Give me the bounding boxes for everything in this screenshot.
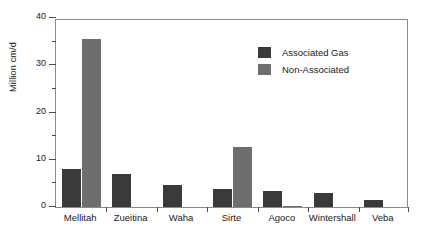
- y-tick-label: 40: [36, 11, 46, 21]
- x-category-label-sirte: Sirte: [222, 212, 242, 223]
- x-category-label-veba: Veba: [372, 212, 394, 223]
- bar-waha-associated-gas: [163, 185, 182, 207]
- bar-sirte-non-associated: [233, 147, 252, 207]
- y-axis-label: Million cm/d: [8, 7, 18, 127]
- x-tick: [258, 207, 259, 212]
- legend-swatch-icon: [258, 47, 271, 58]
- x-tick: [408, 207, 409, 212]
- bar-mellitah-associated-gas: [62, 169, 81, 207]
- x-tick: [106, 207, 107, 212]
- x-category-label-wintershall: Wintershall: [309, 212, 356, 223]
- chart-legend: Associated GasNon-Associated: [258, 44, 349, 78]
- x-tick: [207, 207, 208, 212]
- x-category-label-agoco: Agoco: [268, 212, 295, 223]
- legend-item-associated-gas: Associated Gas: [258, 44, 349, 61]
- legend-label: Non-Associated: [282, 64, 349, 75]
- x-tick: [359, 207, 360, 212]
- legend-item-non-associated: Non-Associated: [258, 61, 349, 78]
- y-tick-10: 10: [49, 159, 56, 160]
- legend-label: Associated Gas: [282, 47, 349, 58]
- y-tick-30: 30: [49, 64, 56, 65]
- y-tick-label: 10: [36, 153, 46, 163]
- y-tick-40: 40: [49, 17, 56, 18]
- x-category-label-mellitah: Mellitah: [64, 212, 97, 223]
- bar-mellitah-non-associated: [82, 39, 101, 207]
- x-category-label-waha: Waha: [169, 212, 193, 223]
- bar-agoco-associated-gas: [263, 191, 282, 207]
- bar-zueitina-associated-gas: [112, 174, 131, 207]
- y-tick-20: 20: [49, 112, 56, 113]
- x-category-label-zueitina: Zueitina: [114, 212, 148, 223]
- y-tick-label: 20: [36, 106, 46, 116]
- bar-chart: Million cm/d 010203040 MellitahZueitinaW…: [0, 0, 426, 246]
- bar-wintershall-associated-gas: [314, 193, 333, 207]
- y-tick-minor-25: [52, 88, 56, 89]
- y-tick-minor-35: [52, 41, 56, 42]
- bar-agoco-non-associated: [283, 206, 302, 207]
- x-tick: [157, 207, 158, 212]
- bar-sirte-associated-gas: [213, 189, 232, 207]
- y-tick-label: 30: [36, 58, 46, 68]
- y-tick-minor-5: [52, 182, 56, 183]
- bar-veba-associated-gas: [364, 200, 383, 207]
- legend-swatch-icon: [258, 64, 271, 75]
- y-tick-0: 0: [49, 206, 56, 207]
- plot-area: 010203040: [55, 19, 408, 208]
- y-tick-minor-15: [52, 135, 56, 136]
- y-tick-label: 0: [41, 200, 46, 210]
